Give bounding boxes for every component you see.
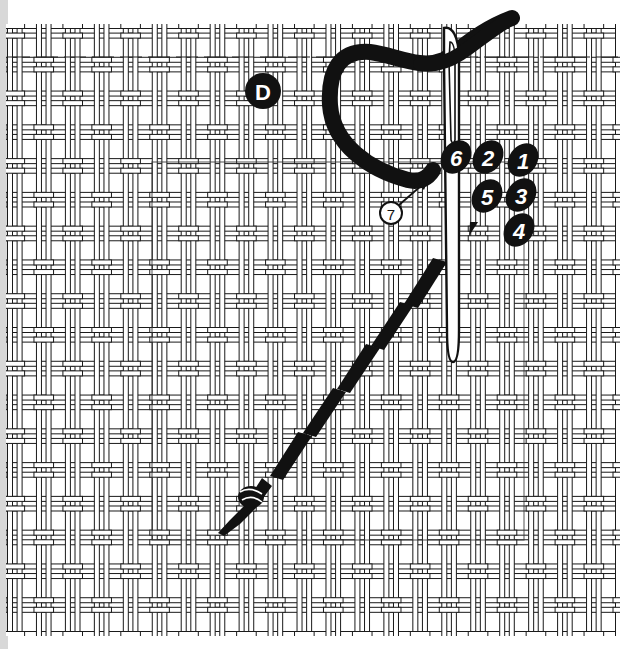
svg-text:3: 3 [515, 184, 527, 209]
stitch-diagram: 1 2 3 4 5 6 7 D [0, 0, 638, 649]
svg-text:2: 2 [481, 146, 495, 171]
svg-text:D: D [255, 80, 271, 105]
page-edge-shadow [0, 0, 8, 649]
figure-label: D [245, 73, 281, 109]
svg-text:1: 1 [517, 149, 529, 174]
svg-text:7: 7 [387, 206, 395, 223]
canvas-mesh [5, 22, 633, 646]
needle-icon [444, 28, 459, 362]
svg-text:4: 4 [512, 219, 525, 244]
svg-text:5: 5 [481, 185, 494, 210]
svg-text:6: 6 [450, 146, 463, 171]
